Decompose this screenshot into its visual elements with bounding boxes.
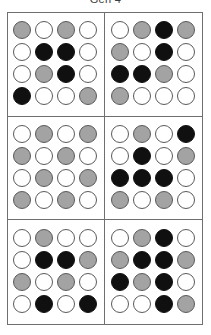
dot-black[interactable] — [111, 273, 129, 291]
dot-gray[interactable] — [133, 21, 151, 39]
dot-black[interactable] — [155, 295, 173, 313]
dot-gray[interactable] — [13, 273, 31, 291]
dot-black[interactable] — [57, 65, 75, 83]
dot-white[interactable] — [13, 295, 31, 313]
dot-white[interactable] — [133, 87, 151, 105]
dot-black[interactable] — [111, 65, 129, 83]
dot-black[interactable] — [155, 229, 173, 247]
dot-black[interactable] — [133, 251, 151, 269]
dot-white[interactable] — [155, 147, 173, 165]
dot-gray[interactable] — [155, 191, 173, 209]
dot-white[interactable] — [35, 273, 53, 291]
dot-black[interactable] — [79, 295, 97, 313]
dot-black[interactable] — [155, 169, 173, 187]
dot-black[interactable] — [111, 169, 129, 187]
dot-white[interactable] — [133, 43, 151, 61]
dot-white[interactable] — [57, 295, 75, 313]
dot-black[interactable] — [155, 273, 173, 291]
dot-gray[interactable] — [57, 21, 75, 39]
dot-white[interactable] — [79, 147, 97, 165]
dot-gray[interactable] — [79, 125, 97, 143]
dot-gray[interactable] — [57, 191, 75, 209]
dot-white[interactable] — [57, 169, 75, 187]
dot-white[interactable] — [79, 229, 97, 247]
dot-white[interactable] — [35, 147, 53, 165]
dot-white[interactable] — [13, 125, 31, 143]
dot-black[interactable] — [35, 251, 53, 269]
dot-gray[interactable] — [57, 147, 75, 165]
dot-black[interactable] — [35, 43, 53, 61]
dot-gray[interactable] — [13, 191, 31, 209]
dot-white[interactable] — [111, 21, 129, 39]
dot-gray[interactable] — [57, 273, 75, 291]
dot-black[interactable] — [13, 87, 31, 105]
dot-white[interactable] — [177, 273, 195, 291]
dot-gray[interactable] — [177, 147, 195, 165]
panel-5[interactable] — [8, 220, 105, 324]
dot-white[interactable] — [177, 169, 195, 187]
dot-gray[interactable] — [79, 169, 97, 187]
dot-white[interactable] — [177, 87, 195, 105]
dot-gray[interactable] — [111, 87, 129, 105]
dot-black[interactable] — [133, 65, 151, 83]
dot-gray[interactable] — [13, 147, 31, 165]
dot-white[interactable] — [111, 229, 129, 247]
dot-gray[interactable] — [35, 169, 53, 187]
dot-white[interactable] — [13, 169, 31, 187]
dot-white[interactable] — [79, 21, 97, 39]
dot-gray[interactable] — [133, 273, 151, 291]
dot-white[interactable] — [79, 273, 97, 291]
dot-gray[interactable] — [177, 295, 195, 313]
dot-gray[interactable] — [13, 21, 31, 39]
dot-black[interactable] — [57, 251, 75, 269]
panel-6[interactable] — [105, 220, 202, 324]
dot-white[interactable] — [79, 65, 97, 83]
dot-gray[interactable] — [133, 229, 151, 247]
dot-gray[interactable] — [111, 191, 129, 209]
dot-white[interactable] — [13, 251, 31, 269]
dot-white[interactable] — [35, 191, 53, 209]
dot-gray[interactable] — [79, 87, 97, 105]
dot-black[interactable] — [155, 21, 173, 39]
dot-gray[interactable] — [133, 125, 151, 143]
dot-white[interactable] — [57, 87, 75, 105]
dot-gray[interactable] — [155, 65, 173, 83]
dot-white[interactable] — [177, 65, 195, 83]
dot-gray[interactable] — [79, 251, 97, 269]
dot-gray[interactable] — [111, 43, 129, 61]
dot-white[interactable] — [111, 125, 129, 143]
dot-gray[interactable] — [35, 229, 53, 247]
dot-gray[interactable] — [111, 251, 129, 269]
dot-gray[interactable] — [35, 65, 53, 83]
dot-black[interactable] — [155, 43, 173, 61]
dot-white[interactable] — [133, 295, 151, 313]
dot-black[interactable] — [133, 169, 151, 187]
panel-2[interactable] — [105, 13, 202, 117]
panel-3[interactable] — [8, 117, 105, 221]
dot-white[interactable] — [111, 147, 129, 165]
dot-black[interactable] — [133, 147, 151, 165]
dot-white[interactable] — [57, 125, 75, 143]
dot-white[interactable] — [177, 191, 195, 209]
dot-white[interactable] — [79, 191, 97, 209]
dot-white[interactable] — [155, 87, 173, 105]
dot-black[interactable] — [35, 295, 53, 313]
dot-white[interactable] — [13, 43, 31, 61]
dot-white[interactable] — [35, 21, 53, 39]
dot-white[interactable] — [177, 229, 195, 247]
dot-white[interactable] — [111, 295, 129, 313]
dot-black[interactable] — [57, 43, 75, 61]
dot-black[interactable] — [155, 251, 173, 269]
dot-white[interactable] — [155, 125, 173, 143]
dot-gray[interactable] — [35, 125, 53, 143]
dot-white[interactable] — [35, 87, 53, 105]
dot-white[interactable] — [79, 43, 97, 61]
dot-black[interactable] — [177, 125, 195, 143]
dot-white[interactable] — [13, 229, 31, 247]
dot-gray[interactable] — [177, 21, 195, 39]
dot-white[interactable] — [57, 229, 75, 247]
dot-white[interactable] — [133, 191, 151, 209]
panel-4[interactable] — [105, 117, 202, 221]
dot-white[interactable] — [177, 43, 195, 61]
panel-1[interactable] — [8, 13, 105, 117]
